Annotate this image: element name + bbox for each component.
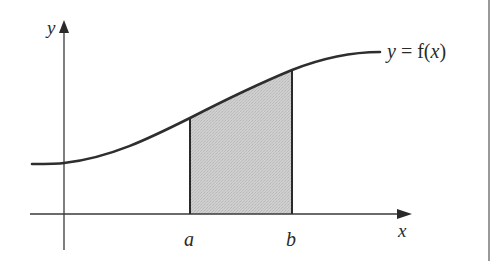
lower-bound-label-a: a xyxy=(184,228,194,250)
curve-label-close: ) xyxy=(439,40,446,63)
x-axis-arrow-icon xyxy=(397,209,412,219)
area-under-curve-diagram: y x a b y = f(x) xyxy=(0,0,490,261)
x-axis-label: x xyxy=(397,220,407,241)
curve-label-x: x xyxy=(430,40,440,62)
y-axis-label: y xyxy=(45,17,56,38)
curve-label-eq: = f( xyxy=(396,40,431,63)
y-axis-arrow-icon xyxy=(59,20,69,33)
curve-label-y: y xyxy=(385,40,396,63)
upper-bound-label-b: b xyxy=(286,228,296,250)
curve-equation-label: y = f(x) xyxy=(385,40,446,63)
